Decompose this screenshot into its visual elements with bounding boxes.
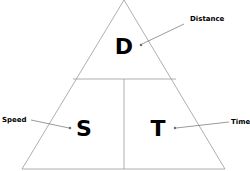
time-arrow-head [174, 127, 176, 129]
formula-triangle-diagram: D S T Distance Speed Time [0, 0, 250, 171]
letter-d: D [115, 34, 133, 59]
speed-label: Speed [2, 116, 27, 124]
speed-arrow [31, 120, 69, 128]
letter-s: S [76, 116, 92, 141]
distance-arrow [142, 24, 184, 44]
speed-arrow-head [69, 127, 71, 129]
distance-arrow-head [140, 44, 142, 46]
time-label: Time [231, 118, 250, 126]
time-arrow [176, 122, 229, 128]
distance-label: Distance [190, 15, 225, 23]
triangle-outline [22, 0, 225, 169]
letter-t: T [150, 116, 165, 141]
